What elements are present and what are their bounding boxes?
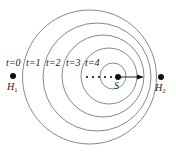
- wavefront-t2: [62, 35, 144, 117]
- observer-h2-dot: [158, 74, 164, 80]
- wavefront-t4: [100, 63, 126, 89]
- observer-h2: H2: [154, 74, 165, 94]
- doppler-wavefront-diagram: t=0 t=1 t=2 t=3 t=4 S H1 H2: [0, 0, 176, 153]
- arrow-head-icon: [137, 75, 144, 80]
- observer-h1-dot: [10, 73, 16, 79]
- velocity-arrow: [118, 75, 144, 80]
- label-t1: t=1: [26, 57, 41, 68]
- trail-dot: [98, 76, 100, 78]
- trail-dot: [110, 76, 112, 78]
- label-t2: t=2: [46, 57, 61, 68]
- label-t4: t=4: [85, 57, 100, 68]
- observer-h2-sub: 2: [162, 87, 165, 94]
- trail-dot: [104, 76, 106, 78]
- time-labels: t=0 t=1 t=2 t=3 t=4: [6, 57, 100, 68]
- source-trail-dots: [86, 76, 112, 78]
- observer-h1-sub: 1: [14, 86, 17, 93]
- observer-h1: H1: [6, 73, 17, 93]
- trail-dot: [92, 76, 94, 78]
- label-t0: t=0: [6, 57, 21, 68]
- trail-dot: [86, 76, 88, 78]
- observer-h2-label: H2: [154, 82, 165, 94]
- source-label: S: [114, 80, 119, 91]
- observer-h1-label: H1: [6, 81, 17, 93]
- label-t3: t=3: [66, 57, 81, 68]
